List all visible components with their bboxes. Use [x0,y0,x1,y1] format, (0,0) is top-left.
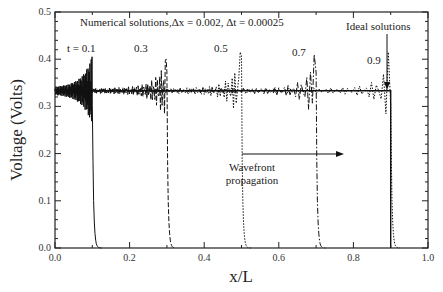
series-line [55,91,391,248]
wavefront-label-line1: Wavefront [229,161,275,173]
plot-frame [55,12,428,248]
time-label-0.3: 0.3 [134,42,148,54]
time-label-0.7: 0.7 [292,46,306,58]
x-tick-label: 0.4 [198,252,211,263]
series-line [55,55,325,249]
time-label-0.9: 0.9 [367,54,381,66]
y-tick-label: 0.4 [39,53,52,64]
y-tick-label: 0.5 [39,6,52,17]
time-label-0.5: 0.5 [214,42,228,54]
time-label-0.1: t = 0.1 [67,42,96,54]
x-tick-label: 0.6 [273,252,286,263]
x-tick-label: 0.2 [123,252,136,263]
x-tick-label: 1.0 [422,252,435,263]
plot-lines [55,52,400,248]
series-line [55,52,400,248]
voltage-chart: 0.00.20.40.60.81.00.00.10.20.30.40.5 x/L… [0,0,443,292]
ideal-solutions-label: Ideal solutions [346,20,410,32]
x-tick-label: 0.0 [49,252,62,263]
y-axis-title: Voltage (Volts) [7,79,26,181]
y-tick-label: 0.0 [39,242,52,253]
axis-ticks: 0.00.20.40.60.81.00.00.10.20.30.40.5 [39,6,435,263]
x-axis-title: x/L [229,267,253,286]
x-tick-label: 0.8 [347,252,360,263]
y-tick-label: 0.1 [39,195,52,206]
y-tick-label: 0.3 [39,100,52,111]
ideal-arrowhead-icon [384,82,390,90]
y-tick-label: 0.2 [39,148,52,159]
numerical-solutions-label: Numerical solutions,Δx = 0.002, Δt = 0.0… [80,16,284,28]
wavefront-label-line2: propagation [226,174,279,186]
wavefront-arrowhead-icon [336,151,344,157]
series-line [55,57,102,248]
